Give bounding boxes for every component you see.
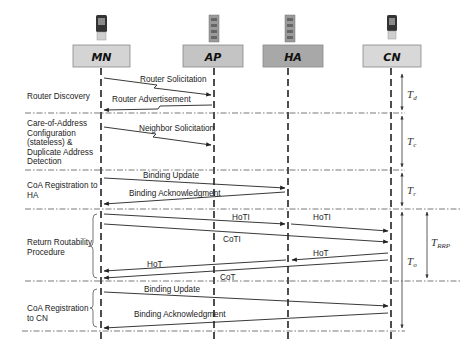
timing-label-trrp: TRRP bbox=[431, 236, 451, 250]
msg-label-cot: CoT bbox=[220, 273, 235, 282]
brace-coa-registration-cn bbox=[90, 289, 97, 327]
msg-router-advertisement bbox=[104, 105, 212, 110]
msg-label-hot-ha-mn: HoT bbox=[147, 260, 162, 269]
entity-ha-label: HA bbox=[284, 51, 302, 64]
msg-label-hoti-mn-ha: HoTI bbox=[232, 213, 250, 222]
msg-hot-ha-mn bbox=[104, 260, 286, 271]
entity-ap-label: AP bbox=[204, 51, 222, 64]
timing-label-td: Td bbox=[407, 88, 417, 102]
msg-label-hoti-ha-cn: HoTI bbox=[313, 213, 331, 222]
entity-mn-label: MN bbox=[91, 51, 111, 64]
mn-phone-icon bbox=[96, 15, 107, 40]
phase-label-coa-config: Care-of-Address Configuration (stateless… bbox=[27, 119, 95, 166]
cn-phone-icon bbox=[387, 15, 397, 39]
timing-label-tc: Tc bbox=[407, 135, 417, 149]
msg-label-binding-ack-ha: Binding Acknowledgment bbox=[129, 189, 221, 198]
timing-arrows bbox=[402, 74, 427, 328]
phase-label-coa-registration-ha: CoA Registration to HA bbox=[27, 181, 100, 200]
entity-cn: CN bbox=[363, 45, 421, 67]
timing-label-tr: Tr bbox=[407, 184, 416, 198]
msg-coti bbox=[104, 224, 388, 242]
entity-ha: HA bbox=[263, 45, 323, 67]
entity-ap: AP bbox=[183, 45, 243, 67]
msg-label-coti: CoTI bbox=[223, 235, 241, 244]
timing-label-to: To bbox=[407, 255, 417, 269]
entity-cn-label: CN bbox=[383, 51, 400, 64]
msg-label-binding-update-cn: Binding Update bbox=[144, 285, 200, 294]
msg-hoti-mn-ha bbox=[104, 214, 285, 224]
msg-label-hot-cn-ha: HoT bbox=[313, 249, 328, 258]
mipv6-handover-sequence-diagram: MN AP HA CN Router Discovery Care-of-Add… bbox=[0, 0, 472, 359]
phase-label-return-routability: Return Routability Procedure bbox=[27, 238, 94, 257]
msg-label-neighbor-solicitation: Neighbor Solicitation bbox=[139, 124, 215, 133]
msg-label-router-advertisement: Router Advertisement bbox=[112, 95, 191, 104]
msg-binding-update-cn bbox=[104, 292, 388, 306]
msg-label-binding-ack-cn: Binding Acknowledgment bbox=[134, 310, 226, 319]
msg-hot-cn-ha bbox=[292, 253, 388, 260]
ha-device-icon bbox=[285, 15, 295, 42]
msg-label-router-solicitation: Router Solicitation bbox=[140, 75, 207, 84]
msg-label-binding-update-ha: Binding Update bbox=[143, 171, 199, 180]
entity-mn: MN bbox=[73, 45, 130, 67]
msg-hoti-ha-cn bbox=[291, 224, 388, 231]
phase-label-router-discovery: Router Discovery bbox=[27, 92, 91, 101]
phase-label-coa-registration-cn: CoA Registration to CN bbox=[27, 304, 91, 323]
ap-device-icon bbox=[209, 15, 219, 42]
